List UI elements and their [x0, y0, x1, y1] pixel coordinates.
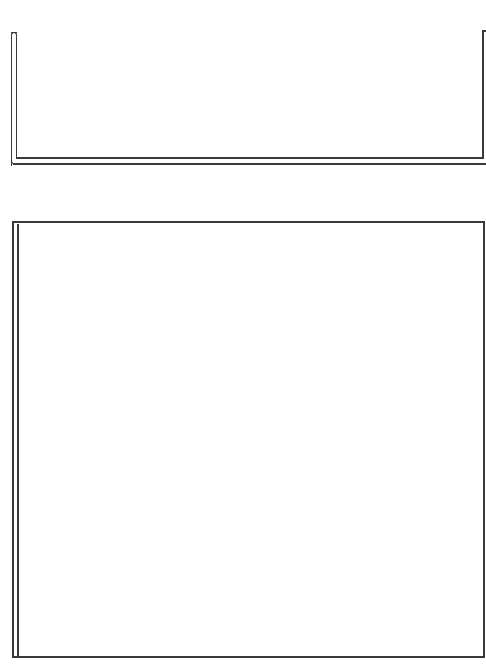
bottom-panel-top-border [12, 221, 484, 223]
top-panel-right-border [482, 30, 484, 158]
bottom-panel-left-border-outer [12, 221, 14, 658]
top-panel-bottom-border-outer [13, 163, 486, 165]
top-panel [0, 0, 486, 170]
bottom-panel-left-border-inner [17, 224, 19, 657]
top-panel-left-border-inner [11, 32, 17, 159]
bottom-panel-right-border [483, 221, 485, 658]
bottom-panel-bottom-border [12, 656, 485, 658]
top-panel-content [22, 36, 478, 154]
bottom-panel-content [24, 228, 479, 652]
top-panel-right-cap [482, 30, 486, 32]
top-panel-bottom-border-inner [16, 157, 484, 159]
